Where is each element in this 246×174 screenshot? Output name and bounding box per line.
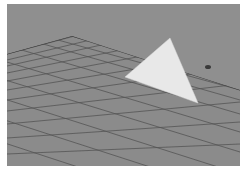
viewport-canvas[interactable]	[7, 4, 240, 166]
viewport-3d[interactable]: 3D perspective viewport	[7, 4, 240, 166]
manipulator-handle-icon[interactable]	[205, 65, 211, 69]
